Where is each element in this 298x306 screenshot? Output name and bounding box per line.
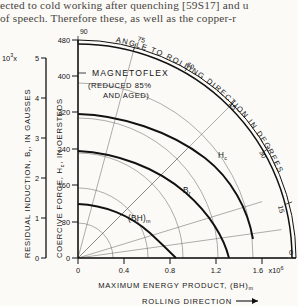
curve-label-bh-max: (BH)m <box>128 214 151 224</box>
hc-tick-480: 480 <box>58 36 70 45</box>
br-tick-0: 0 <box>35 254 39 263</box>
curve-br <box>78 151 229 258</box>
chart-title: MAGNETOFLEX <box>92 68 169 78</box>
x-tick-3: 1.2 <box>211 266 221 275</box>
hc-axis-ticks <box>72 40 78 258</box>
curve-hc <box>78 114 253 239</box>
footer-arrow-head <box>252 298 258 304</box>
x-axis-tick-labels: 0 0.4 0.8 1.2 1.6 x106 <box>76 265 284 276</box>
figure-page: ected to cold working after quenching [5… <box>0 0 298 306</box>
br-tick-1: 1 <box>35 214 39 223</box>
hc-tick-400: 400 <box>58 72 70 81</box>
polar-chart-figure: 0 0.4 0.8 1.2 1.6 x106 0 480 400 320 240… <box>0 27 298 306</box>
angle-label-15: 15 <box>277 205 286 214</box>
x-tick-4: 1.6 <box>253 266 263 275</box>
curve-label-hc: Hc <box>218 151 227 161</box>
angle-label-90: 90 <box>80 28 88 35</box>
curve-bh-max <box>78 204 176 258</box>
br-tick-2: 2 <box>35 174 39 183</box>
x-tick-0: 0 <box>76 266 80 275</box>
x-axis-title: MAXIMUM ENERGY PRODUCT, (BH)m <box>98 281 254 291</box>
x-tick-2: 0.8 <box>165 266 175 275</box>
hc-axis-title: COERCIVE FORCE, Hc, IN OERSTEDS <box>55 98 65 258</box>
x-axis-ticks <box>78 258 262 264</box>
x-tick-exponent: x106 <box>269 265 284 276</box>
chart-svg: 0 0.4 0.8 1.2 1.6 x106 0 480 400 320 240… <box>0 27 298 306</box>
footer-rolling-direction: ROLLING DIRECTION <box>142 297 258 306</box>
br-tick-5: 5 <box>35 54 39 63</box>
footer-label: ROLLING DIRECTION <box>142 297 232 306</box>
br-axis-title: RESIDUAL INDUCTION, Br, IN GAUSSES <box>23 89 33 258</box>
br-axis-tick-labels: 5 4 3 2 1 0 <box>35 54 39 263</box>
hc-tick-0: 0 <box>66 254 70 263</box>
angle-tick-label-0: 0 <box>289 248 293 257</box>
br-scale-multiplier: 103x <box>2 52 17 63</box>
curve-label-br: Br <box>183 186 191 196</box>
x-tick-1: 0.4 <box>119 266 129 275</box>
br-axis-ticks <box>41 58 46 258</box>
body-text-line-1: ected to cold working after quenching [5… <box>0 0 298 11</box>
body-text-line-2: of speech. Therefore these, as well as t… <box>0 12 298 24</box>
br-tick-4: 4 <box>35 94 39 103</box>
chart-subtitle-1: (REDUCED 85% <box>88 81 151 90</box>
chart-subtitle-2: AND AGED) <box>103 91 149 100</box>
br-tick-3: 3 <box>35 134 39 143</box>
